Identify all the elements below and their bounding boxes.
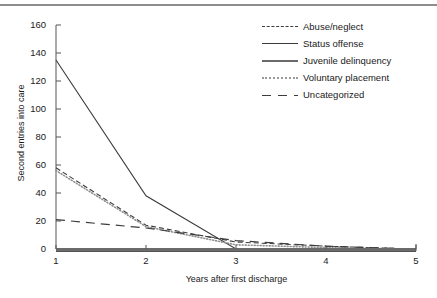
y-tick-label: 0 [20,244,46,254]
legend-item-label: Juvenile delinquency [303,55,391,67]
y-tick-label: 140 [20,48,46,58]
y-axis-tick-labels: 160 140 120 100 80 60 40 20 0 [16,0,46,298]
x-tick-label: 1 [46,256,66,266]
legend-item-juvenile-delinquency: Juvenile delinquency [262,52,434,69]
x-axis-label: Years after first discharge [56,274,417,284]
legend-line-long-dash-icon [262,89,298,101]
legend-line-dashed-icon [262,21,298,33]
legend-item-label: Status offense [303,38,364,50]
legend-item-label: Voluntary placement [303,72,389,84]
legend-item-label: Uncategorized [303,89,364,101]
legend-line-solid-thick-icon [262,55,298,67]
x-tick-label: 4 [316,256,336,266]
y-axis-ticks [56,25,61,249]
x-tick-label: 5 [406,256,426,266]
x-tick-label: 2 [136,256,156,266]
series-line-abuse-neglect [56,168,416,249]
legend-item-status-offense: Status offense [262,35,434,52]
y-tick-label: 100 [20,104,46,114]
x-tick-label: 3 [226,256,246,266]
legend-item-abuse-neglect: Abuse/neglect [262,18,434,35]
legend-item-uncategorized: Uncategorized [262,86,434,103]
y-tick-label: 120 [20,76,46,86]
y-tick-label: 40 [20,188,46,198]
y-tick-label: 80 [20,132,46,142]
line-chart-figure: Second entries into care 160 140 120 100… [0,0,437,298]
y-tick-label: 60 [20,160,46,170]
chart-legend: Abuse/neglect Status offense Juvenile de… [262,18,434,103]
x-axis-tick-labels: 1 2 3 4 5 [0,256,437,270]
y-tick-label: 160 [20,20,46,30]
legend-line-solid-thin-icon [262,38,298,50]
y-tick-label: 20 [20,216,46,226]
series-line-voluntary-placement [56,171,416,249]
legend-line-dotted-icon [262,72,298,84]
legend-item-voluntary-placement: Voluntary placement [262,69,434,86]
legend-item-label: Abuse/neglect [303,21,363,33]
